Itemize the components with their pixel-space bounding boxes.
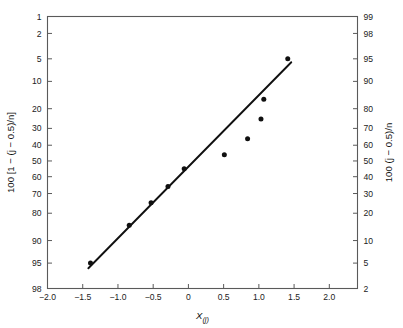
y-right-tick-label: 20 xyxy=(364,208,374,218)
x-tick-label: −2.0 xyxy=(39,292,56,302)
probability-plot-figure: −2.0−1.5−1.0−0.500.51.01.52.0 1251020304… xyxy=(0,0,403,328)
x-tick-label: 1.5 xyxy=(288,292,300,302)
data-point xyxy=(222,152,227,157)
data-point xyxy=(261,97,266,102)
y-left-tick-label: 20 xyxy=(32,104,42,114)
data-point xyxy=(165,184,170,189)
y-left-tick-label: 5 xyxy=(37,54,42,64)
y-axis-title-left: 100 [1 − (j − 0.5)/n] xyxy=(5,112,16,193)
y-right-tick-label: 30 xyxy=(364,189,374,199)
y-right-tick-label: 10 xyxy=(364,236,374,246)
x-tick-label: 1.0 xyxy=(253,292,265,302)
y-axis-title-right: 100 (j − 0.5)/n xyxy=(383,123,394,182)
y-right-tick-label: 70 xyxy=(364,123,374,133)
y-left-tick-label: 95 xyxy=(32,258,42,268)
normal-probability-plot: −2.0−1.5−1.0−0.500.51.01.52.0 1251020304… xyxy=(0,0,403,328)
y-left-tick-label: 40 xyxy=(32,140,42,150)
y-left-tick-label: 60 xyxy=(32,172,42,182)
x-axis-title-subscript: (j) xyxy=(202,315,209,324)
data-point xyxy=(88,261,93,266)
x-tick-label: −0.5 xyxy=(145,292,162,302)
y-left-tick-label: 10 xyxy=(32,76,42,86)
y-right-tick-label: 40 xyxy=(364,172,374,182)
y-right-tick-label: 80 xyxy=(364,104,374,114)
data-point xyxy=(258,117,263,122)
x-tick-label: −1.5 xyxy=(74,292,91,302)
y-left-tick-label: 70 xyxy=(32,189,42,199)
data-point xyxy=(182,166,187,171)
plot-background xyxy=(0,0,403,328)
y-right-tick-label: 95 xyxy=(364,54,374,64)
x-tick-label: 0.5 xyxy=(218,292,230,302)
y-left-tick-label: 98 xyxy=(32,284,42,294)
y-right-tick-label: 99 xyxy=(364,12,374,22)
x-tick-label: 0 xyxy=(186,292,191,302)
data-point xyxy=(127,223,132,228)
y-left-tick-label: 50 xyxy=(32,156,42,166)
x-tick-label: −1.0 xyxy=(109,292,126,302)
y-right-tick-label: 50 xyxy=(364,156,374,166)
data-point xyxy=(149,200,154,205)
y-right-tick-label: 60 xyxy=(364,140,374,150)
data-point xyxy=(285,56,290,61)
y-left-tick-label: 80 xyxy=(32,208,42,218)
y-left-tick-label: 1 xyxy=(37,12,42,22)
y-left-tick-label: 2 xyxy=(37,29,42,39)
y-left-tick-label: 30 xyxy=(32,123,42,133)
y-right-tick-label: 90 xyxy=(364,76,374,86)
x-tick-label: 2.0 xyxy=(323,292,335,302)
data-point xyxy=(245,136,250,141)
y-right-tick-label: 2 xyxy=(364,284,369,294)
y-left-tick-label: 90 xyxy=(32,236,42,246)
y-right-tick-label: 98 xyxy=(364,29,374,39)
y-right-tick-label: 5 xyxy=(364,258,369,268)
